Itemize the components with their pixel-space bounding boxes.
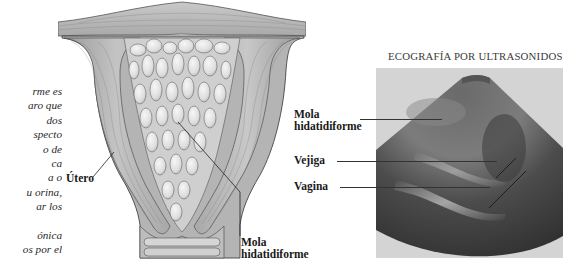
side-paragraph: rme es aro que dos specto o de ca a o u …	[0, 84, 62, 256]
ultrasound-title: ECOGRAFÍA POR ULTRASONIDOS	[388, 50, 563, 62]
ultrasound-image	[376, 68, 563, 258]
side-text-line: ca	[0, 156, 62, 170]
label-mola-ultrasound-2: hidatidiforme	[294, 120, 362, 134]
side-text-line: ar los	[0, 199, 62, 213]
side-text-line: ónica	[0, 228, 62, 242]
uterus-illustration	[58, 0, 306, 261]
label-vagina: Vagina	[294, 180, 328, 194]
leader-vagina	[340, 187, 490, 188]
side-text-line: specto	[0, 127, 62, 141]
side-text-line: u orina,	[0, 185, 62, 199]
leader-mola	[360, 119, 442, 120]
side-text-line: rme es	[0, 84, 62, 98]
side-text-line: os por el	[0, 242, 62, 256]
label-utero: Útero	[66, 172, 94, 186]
side-text-gap	[0, 214, 62, 228]
label-vejiga: Vejiga	[294, 154, 325, 168]
side-text-line: a o	[0, 170, 62, 184]
leader-vejiga	[337, 161, 497, 162]
side-text-line: o de	[0, 142, 62, 156]
ultrasound-scan	[376, 68, 563, 258]
label-mola-illustration-2: hidatidiforme	[241, 248, 309, 261]
side-text-line: dos	[0, 113, 62, 127]
side-text-line: aro que	[0, 98, 62, 112]
